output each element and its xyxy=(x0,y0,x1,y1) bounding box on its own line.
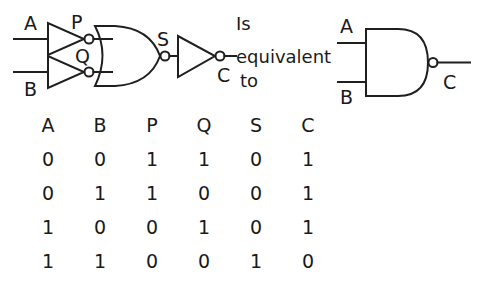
truth-table-cell: 1 xyxy=(282,142,334,176)
truth-table-header-cell: S xyxy=(230,108,282,142)
truth-table-header-cell: P xyxy=(126,108,178,142)
label-nand-input-a: A xyxy=(340,17,353,36)
truth-table-cell: 0 xyxy=(230,176,282,210)
label-nand-output-c: C xyxy=(443,73,456,92)
table-row: 1 0 0 1 0 1 xyxy=(22,210,334,244)
truth-table-cell: 0 xyxy=(230,142,282,176)
truth-table-cell: 0 xyxy=(282,244,334,278)
truth-table-header-cell: A xyxy=(22,108,74,142)
truth-table-cell: 1 xyxy=(230,244,282,278)
truth-table-body: A B P Q S C 0 0 1 1 0 1 0 1 1 0 0 1 xyxy=(22,108,334,278)
label-node-s: S xyxy=(157,30,169,49)
table-row: 0 0 1 1 0 1 xyxy=(22,142,334,176)
truth-table-cell: 1 xyxy=(282,210,334,244)
equivalence-line-3: to xyxy=(240,70,258,91)
not-gate-b-bubble xyxy=(85,68,94,77)
truth-table-cell: 1 xyxy=(282,176,334,210)
truth-table-cell: 1 xyxy=(74,176,126,210)
truth-table-cell: 0 xyxy=(22,142,74,176)
label-input-b: B xyxy=(24,80,37,99)
truth-table-header-row: A B P Q S C xyxy=(22,108,334,142)
logic-diagram-stage: A B P Q S C Is equivalent to A B C A B P… xyxy=(0,0,479,298)
truth-table-cell: 1 xyxy=(74,244,126,278)
truth-table-cell: 1 xyxy=(126,176,178,210)
truth-table-cell: 0 xyxy=(74,210,126,244)
label-nand-input-b: B xyxy=(340,88,353,107)
truth-table-cell: 0 xyxy=(126,210,178,244)
label-input-a: A xyxy=(24,14,37,33)
label-node-p: P xyxy=(71,13,82,32)
truth-table-header-cell: C xyxy=(282,108,334,142)
truth-table-cell: 1 xyxy=(178,142,230,176)
table-row: 0 1 1 0 0 1 xyxy=(22,176,334,210)
truth-table-cell: 1 xyxy=(178,210,230,244)
truth-table-cell: 0 xyxy=(178,176,230,210)
table-row: 1 1 0 0 1 0 xyxy=(22,244,334,278)
not-gate-s xyxy=(178,36,215,77)
truth-table-cell: 0 xyxy=(22,176,74,210)
nor-gate-bubble xyxy=(161,52,170,61)
truth-table-cell: 0 xyxy=(178,244,230,278)
not-gate-s-bubble xyxy=(216,52,225,61)
truth-table-cell: 1 xyxy=(22,244,74,278)
nand-gate xyxy=(366,29,428,96)
truth-table-cell: 1 xyxy=(126,142,178,176)
equivalence-line-1: Is xyxy=(236,13,251,34)
truth-table: A B P Q S C 0 0 1 1 0 1 0 1 1 0 0 1 xyxy=(22,108,334,278)
truth-table-cell: 0 xyxy=(230,210,282,244)
nand-gate-bubble xyxy=(429,58,438,67)
truth-table-cell: 0 xyxy=(126,244,178,278)
truth-table-header-cell: Q xyxy=(178,108,230,142)
label-node-q: Q xyxy=(75,47,90,66)
truth-table-cell: 1 xyxy=(22,210,74,244)
label-output-c: C xyxy=(217,66,230,85)
equivalence-line-2: equivalent xyxy=(236,46,331,67)
truth-table-header-cell: B xyxy=(74,108,126,142)
truth-table-cell: 0 xyxy=(74,142,126,176)
not-gate-a-bubble xyxy=(85,35,94,44)
nor-gate xyxy=(95,26,160,86)
